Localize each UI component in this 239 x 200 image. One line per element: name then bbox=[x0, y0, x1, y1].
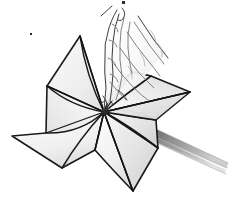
stray-dot-top bbox=[122, 1, 125, 4]
pinwheel-drawing-svg bbox=[0, 0, 239, 200]
pinwheel-illustration bbox=[0, 0, 239, 200]
stray-dot-left bbox=[30, 33, 32, 35]
